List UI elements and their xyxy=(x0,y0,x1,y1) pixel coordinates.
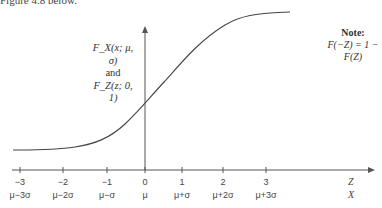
y-axis-arrow-icon xyxy=(142,26,148,33)
y-label-line-1: F_X(x; μ, σ) xyxy=(88,42,138,67)
note-title: Note: xyxy=(341,27,364,38)
x-axis-name: X xyxy=(348,189,354,200)
z-tick-label: 3 xyxy=(251,177,281,187)
x-tick-label: μ−2σ xyxy=(48,190,78,200)
y-axis-label: F_X(x; μ, σ) and F_Z(z; 0, 1) xyxy=(88,42,138,105)
z-axis-name: Z xyxy=(348,176,354,187)
z-tick-label: −2 xyxy=(48,177,78,187)
z-tick-label: −3 xyxy=(5,177,35,187)
note-annotation: Note: F(−Z) = 1 − F(Z) xyxy=(318,27,382,63)
x-axis-arrow-icon xyxy=(368,167,375,173)
note-text: F(−Z) = 1 − F(Z) xyxy=(318,39,382,63)
x-tick-label: μ−3σ xyxy=(5,190,35,200)
z-tick-label: 0 xyxy=(130,177,160,187)
y-label-line-3: F_Z(z; 0, 1) xyxy=(88,80,138,105)
x-tick-label: μ+2σ xyxy=(208,190,238,200)
z-tick-label: 2 xyxy=(208,177,238,187)
z-tick-label: −1 xyxy=(92,177,122,187)
y-label-line-2: and xyxy=(88,67,138,80)
x-tick-label: μ+3σ xyxy=(251,190,281,200)
z-tick-label: 1 xyxy=(167,177,197,187)
x-tick-label: μ+σ xyxy=(167,190,197,200)
x-tick-label: μ−σ xyxy=(92,190,122,200)
cdf-curve xyxy=(13,12,290,150)
x-tick-label: μ xyxy=(130,190,160,200)
